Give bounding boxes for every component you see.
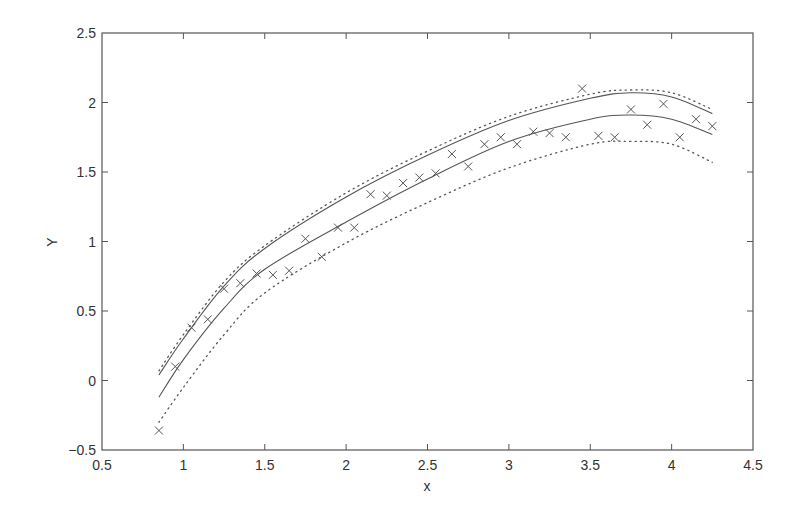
x-tick-label: 3 (505, 457, 513, 473)
lower-solid-curve (159, 115, 712, 397)
upper-dotted-curve (159, 90, 712, 371)
x-marker (399, 179, 407, 187)
x-marker (659, 100, 667, 108)
x-marker (497, 133, 505, 141)
y-tick-label: 0.5 (77, 303, 97, 319)
x-marker (415, 174, 423, 182)
chart-canvas: 0.511.522.533.544.5 −0.500.511.522.5 x Y (0, 0, 810, 519)
x-tick-label: 1 (179, 457, 187, 473)
x-marker (318, 253, 326, 261)
x-marker (594, 132, 602, 140)
x-marker (578, 85, 586, 93)
x-marker (643, 121, 651, 129)
x-tick-label: 3.5 (581, 457, 601, 473)
x-axis-label: x (424, 478, 431, 494)
x-marker (627, 105, 635, 113)
x-marker (513, 140, 521, 148)
y-tick-label: 2 (88, 95, 96, 111)
y-tick-label: 0 (88, 373, 96, 389)
x-marker (236, 279, 244, 287)
x-marker (285, 267, 293, 275)
upper-solid-curve (159, 93, 712, 375)
y-tick-label: 1 (88, 234, 96, 250)
y-tick-label: 1.5 (77, 164, 97, 180)
y-axis-ticks: −0.500.511.522.5 (68, 25, 753, 458)
x-marker (155, 427, 163, 435)
x-axis-ticks: 0.511.522.533.544.5 (92, 33, 763, 473)
plot-series-layer (155, 85, 716, 435)
y-tick-label: −0.5 (68, 442, 96, 458)
x-tick-label: 4.5 (743, 457, 763, 473)
x-tick-label: 2 (342, 457, 350, 473)
x-tick-label: 0.5 (92, 457, 112, 473)
x-marker (464, 162, 472, 170)
x-marker (350, 224, 358, 232)
x-marker (301, 235, 309, 243)
x-marker (708, 122, 716, 130)
x-tick-label: 2.5 (418, 457, 438, 473)
plot-frame (102, 33, 753, 450)
y-axis-label: Y (44, 237, 60, 247)
x-marker (562, 133, 570, 141)
x-marker (367, 190, 375, 198)
x-marker (692, 115, 700, 123)
x-marker (676, 133, 684, 141)
x-marker (204, 315, 212, 323)
y-tick-label: 2.5 (77, 25, 97, 41)
x-marker (546, 129, 554, 137)
x-marker (448, 150, 456, 158)
x-marker (480, 140, 488, 148)
x-marker (269, 271, 277, 279)
x-marker (611, 133, 619, 141)
x-tick-label: 4 (668, 457, 676, 473)
x-tick-label: 1.5 (255, 457, 275, 473)
